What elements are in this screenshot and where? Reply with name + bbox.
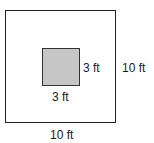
inner-shaded-square xyxy=(42,48,80,86)
inner-width-label: 3 ft xyxy=(52,91,69,103)
inner-height-label: 3 ft xyxy=(83,62,100,74)
outer-height-label: 10 ft xyxy=(122,62,145,74)
outer-width-label: 10 ft xyxy=(50,129,73,141)
